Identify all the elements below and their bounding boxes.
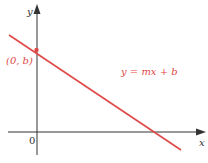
- line-y-equals-mx-plus-b: [9, 35, 181, 150]
- diagram-canvas: y x 0 (0, b) y = mx + b: [0, 0, 208, 163]
- intercept-label: (0, b): [6, 56, 33, 66]
- y-axis-label: y: [27, 7, 33, 17]
- x-axis-label: x: [199, 138, 205, 148]
- y-axis-arrow-icon: [34, 4, 41, 14]
- y-intercept-point: [34, 48, 38, 52]
- x-axis-arrow-icon: [196, 129, 206, 136]
- origin-label: 0: [29, 136, 35, 146]
- equation-label: y = mx + b: [121, 67, 178, 77]
